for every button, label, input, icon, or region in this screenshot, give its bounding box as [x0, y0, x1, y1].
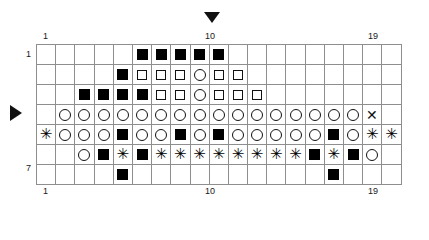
grid-cell[interactable]	[37, 85, 56, 105]
grid-cell[interactable]	[113, 125, 132, 145]
grid-cell[interactable]: ✳	[152, 145, 171, 165]
grid-cell[interactable]	[363, 45, 382, 65]
grid-cell[interactable]: ✳	[209, 145, 228, 165]
grid-cell[interactable]	[382, 105, 401, 125]
grid-cell[interactable]	[286, 45, 305, 65]
grid-cell[interactable]: ✳	[171, 145, 190, 165]
grid-cell[interactable]	[228, 45, 247, 65]
grid-cell[interactable]	[132, 165, 151, 185]
grid-cell[interactable]	[94, 65, 113, 85]
grid-cell[interactable]	[363, 85, 382, 105]
grid-cell[interactable]	[152, 165, 171, 185]
grid-cell[interactable]	[190, 125, 209, 145]
grid-cell[interactable]	[209, 85, 228, 105]
grid-cell[interactable]	[286, 85, 305, 105]
grid-cell[interactable]	[286, 165, 305, 185]
grid-cell[interactable]	[152, 85, 171, 105]
grid-cell[interactable]	[132, 45, 151, 65]
grid-cell[interactable]	[171, 45, 190, 65]
grid-cell[interactable]	[37, 105, 56, 125]
grid-cell[interactable]	[113, 85, 132, 105]
grid-cell[interactable]: ✳	[113, 145, 132, 165]
grid-cell[interactable]	[248, 85, 267, 105]
grid-cell[interactable]	[152, 125, 171, 145]
grid-cell[interactable]: ✳	[324, 145, 343, 165]
grid-cell[interactable]	[248, 165, 267, 185]
grid-cell[interactable]	[267, 105, 286, 125]
grid-cell[interactable]	[344, 65, 363, 85]
grid-cell[interactable]	[75, 45, 94, 65]
grid-cell[interactable]	[37, 145, 56, 165]
grid-cell[interactable]	[132, 85, 151, 105]
grid-cell[interactable]	[190, 105, 209, 125]
grid-cell[interactable]	[152, 65, 171, 85]
grid-cell[interactable]	[382, 165, 401, 185]
grid-cell[interactable]	[305, 105, 324, 125]
grid-cell[interactable]	[305, 85, 324, 105]
grid-cell[interactable]	[209, 65, 228, 85]
grid-cell[interactable]	[344, 125, 363, 145]
grid-cell[interactable]	[113, 105, 132, 125]
grid-cell[interactable]: ✳	[363, 125, 382, 145]
grid-cell[interactable]	[324, 65, 343, 85]
grid-cell[interactable]: ✳	[248, 145, 267, 165]
grid-cell[interactable]	[113, 165, 132, 185]
grid-cell[interactable]	[75, 125, 94, 145]
grid-cell[interactable]	[132, 65, 151, 85]
grid-cell[interactable]	[56, 65, 75, 85]
grid-cell[interactable]	[37, 65, 56, 85]
grid-cell[interactable]	[190, 85, 209, 105]
grid-cell[interactable]	[113, 65, 132, 85]
grid-cell[interactable]	[344, 45, 363, 65]
grid-cell[interactable]	[324, 85, 343, 105]
grid-cell[interactable]	[132, 125, 151, 145]
grid-cell[interactable]: ✳	[37, 125, 56, 145]
grid-cell[interactable]	[37, 165, 56, 185]
grid-cell[interactable]	[363, 165, 382, 185]
grid-cell[interactable]	[209, 45, 228, 65]
grid-cell[interactable]	[37, 45, 56, 65]
grid-cell[interactable]	[248, 125, 267, 145]
grid-cell[interactable]	[75, 165, 94, 185]
grid-cell[interactable]	[94, 85, 113, 105]
grid-cell[interactable]	[267, 65, 286, 85]
grid-cell[interactable]	[171, 65, 190, 85]
grid-cell[interactable]	[305, 165, 324, 185]
grid-cell[interactable]	[56, 165, 75, 185]
grid-cell[interactable]	[56, 125, 75, 145]
grid-cell[interactable]	[56, 45, 75, 65]
grid-cell[interactable]	[248, 45, 267, 65]
grid-cell[interactable]	[324, 165, 343, 185]
grid-cell[interactable]	[324, 45, 343, 65]
grid-cell[interactable]: ✕	[363, 105, 382, 125]
grid-cell[interactable]	[305, 125, 324, 145]
grid-cell[interactable]	[228, 165, 247, 185]
grid-cell[interactable]	[228, 105, 247, 125]
grid-cell[interactable]	[305, 65, 324, 85]
grid-cell[interactable]	[286, 65, 305, 85]
grid-cell[interactable]	[248, 65, 267, 85]
grid-cell[interactable]	[171, 105, 190, 125]
grid-cell[interactable]	[344, 145, 363, 165]
grid-cell[interactable]	[56, 85, 75, 105]
grid-cell[interactable]	[94, 105, 113, 125]
grid-cell[interactable]	[132, 105, 151, 125]
grid-cell[interactable]	[94, 45, 113, 65]
grid-cell[interactable]	[152, 105, 171, 125]
grid-cell[interactable]	[113, 45, 132, 65]
grid-cell[interactable]	[382, 85, 401, 105]
grid-cell[interactable]	[248, 105, 267, 125]
grid-cell[interactable]	[228, 85, 247, 105]
grid-cell[interactable]	[209, 105, 228, 125]
grid-cell[interactable]	[324, 105, 343, 125]
grid-cell[interactable]	[209, 125, 228, 145]
grid-cell[interactable]	[267, 125, 286, 145]
grid-cell[interactable]	[75, 105, 94, 125]
grid-cell[interactable]	[75, 145, 94, 165]
grid-cell[interactable]: ✳	[267, 145, 286, 165]
grid-cell[interactable]	[382, 45, 401, 65]
grid-cell[interactable]	[171, 125, 190, 145]
grid-cell[interactable]	[228, 125, 247, 145]
grid-cell[interactable]	[190, 65, 209, 85]
grid-cell[interactable]: ✳	[190, 145, 209, 165]
